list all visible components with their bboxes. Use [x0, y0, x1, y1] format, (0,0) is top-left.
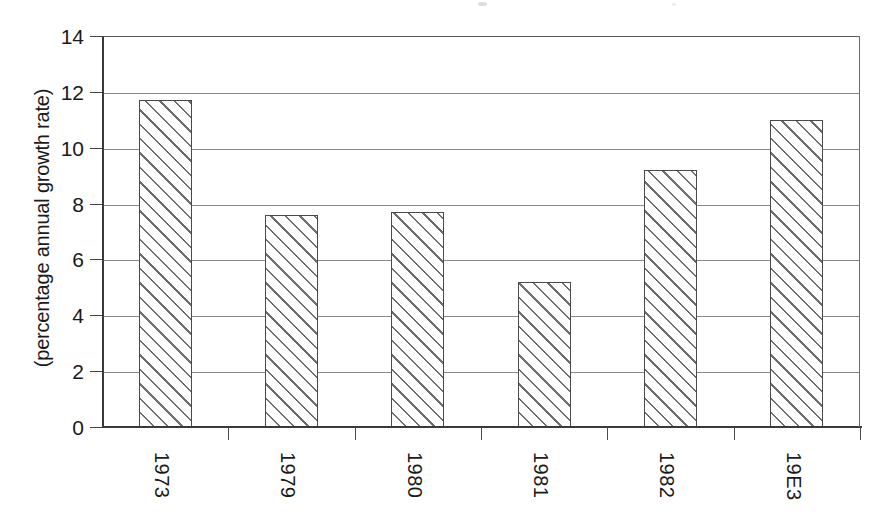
gridline — [104, 205, 860, 206]
y-axis-tick-labels: 02468101214 — [38, 0, 84, 530]
bar — [391, 212, 444, 427]
y-axis-tick-label: 0 — [38, 417, 84, 438]
y-axis-tick-mark — [90, 148, 102, 149]
gridline — [104, 316, 860, 317]
y-axis-tick-label: 2 — [38, 361, 84, 382]
x-axis-tick-label: 1982 — [657, 452, 677, 512]
y-axis-tick-label: 6 — [38, 249, 84, 270]
y-axis-tick-mark — [90, 92, 102, 93]
x-axis-tick-mark — [734, 427, 735, 440]
y-axis-tick-mark — [90, 371, 102, 372]
y-axis-tick-label: 8 — [38, 193, 84, 214]
bar — [139, 100, 192, 427]
gridline — [104, 260, 860, 261]
plot-area — [102, 36, 860, 427]
gridline — [104, 93, 860, 94]
bar — [265, 215, 318, 427]
scan-speck-secondary-icon — [672, 3, 676, 6]
bar — [644, 170, 697, 427]
x-axis-line — [102, 426, 862, 428]
gridline — [104, 372, 860, 373]
x-axis-tick-mark — [228, 427, 229, 440]
x-axis-tick-label: 1979 — [278, 452, 298, 512]
y-axis-tick-mark — [90, 315, 102, 316]
x-axis-tick-label: 1973 — [152, 452, 172, 512]
x-axis-tick-mark — [607, 427, 608, 440]
plot-right-border — [859, 36, 860, 427]
y-axis-tick-mark — [90, 204, 102, 205]
y-axis-tick-label: 10 — [38, 137, 84, 158]
y-axis-tick-mark — [90, 259, 102, 260]
gridline — [104, 149, 860, 150]
y-axis-tick-label: 12 — [38, 81, 84, 102]
y-axis-tick-mark — [90, 36, 102, 37]
x-axis-tick-label: 1980 — [405, 452, 425, 512]
bar — [518, 282, 571, 427]
y-axis-tick-label: 4 — [38, 305, 84, 326]
x-axis-tick-mark — [860, 427, 861, 440]
bar-chart: (percentage annual growth rate) 02468101… — [0, 0, 881, 530]
x-axis-tick-label: 1981 — [531, 452, 551, 512]
scan-speck-icon — [478, 2, 487, 6]
x-axis-tick-mark — [355, 427, 356, 440]
x-axis-tick-mark — [481, 427, 482, 440]
x-axis-tick-label: 19E3 — [784, 452, 804, 512]
y-axis-tick-mark — [90, 427, 102, 428]
bar — [770, 120, 823, 427]
y-axis-tick-label: 14 — [38, 26, 84, 47]
